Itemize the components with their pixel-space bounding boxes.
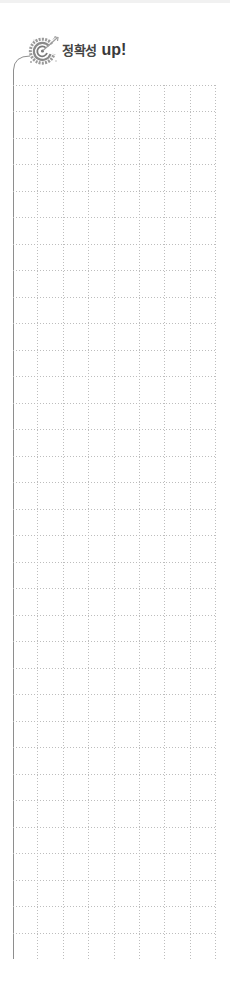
writing-grid — [13, 85, 216, 959]
title-korean: 정확성 — [62, 40, 97, 59]
section-title: 정확성 up! — [62, 40, 126, 62]
target-icon — [26, 34, 60, 68]
top-strip — [0, 0, 230, 3]
title-english: up! — [102, 41, 127, 59]
section-header: 정확성 up! — [0, 30, 230, 75]
